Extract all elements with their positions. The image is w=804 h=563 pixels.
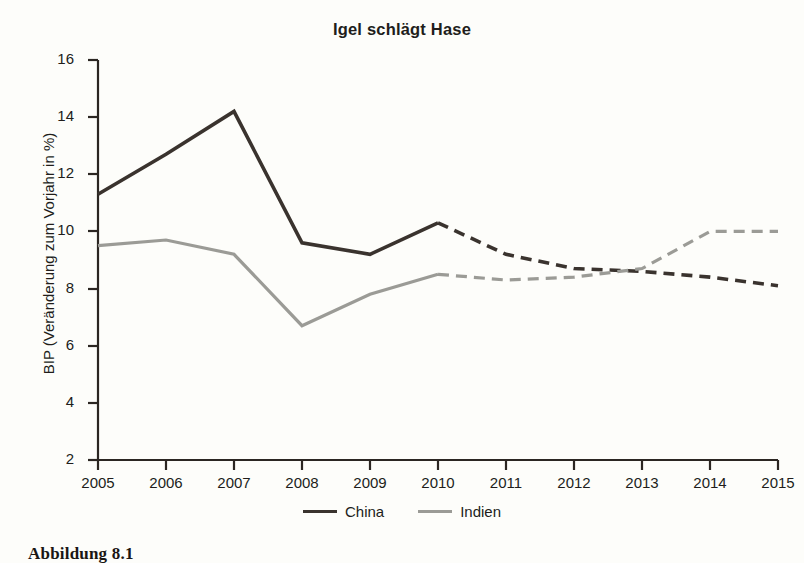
y-tick-label: 6 xyxy=(30,336,74,353)
x-tick-label: 2013 xyxy=(607,474,677,491)
legend-entry-indien: Indien xyxy=(418,503,501,520)
x-tick-label: 2010 xyxy=(403,474,473,491)
series-line-china-forecast xyxy=(438,223,778,286)
series-line-indien-forecast xyxy=(438,231,778,280)
y-tick-label: 4 xyxy=(30,393,74,410)
series-lines xyxy=(98,111,778,325)
x-tick-label: 2012 xyxy=(539,474,609,491)
legend-swatch-china xyxy=(303,510,337,513)
x-tick-label: 2014 xyxy=(675,474,745,491)
y-tick-label: 16 xyxy=(30,50,74,67)
line-chart-plot xyxy=(0,0,804,500)
y-axis xyxy=(88,60,98,460)
x-tick-label: 2011 xyxy=(471,474,541,491)
y-tick-label: 12 xyxy=(30,164,74,181)
y-tick-label: 2 xyxy=(30,450,74,467)
x-tick-label: 2008 xyxy=(267,474,337,491)
legend-swatch-indien xyxy=(418,510,452,513)
y-tick-label: 8 xyxy=(30,279,74,296)
legend-label-china: China xyxy=(345,503,384,520)
legend-label-indien: Indien xyxy=(460,503,501,520)
x-axis xyxy=(98,460,778,470)
legend-entry-china: China xyxy=(303,503,384,520)
x-tick-label: 2005 xyxy=(63,474,133,491)
x-tick-label: 2015 xyxy=(743,474,804,491)
y-tick-label: 10 xyxy=(30,221,74,238)
figure-caption: Abbildung 8.1 xyxy=(28,544,134,563)
y-tick-label: 14 xyxy=(30,107,74,124)
figure-container: Igel schlägt Hase BIP (Veränderung zum V… xyxy=(0,0,804,563)
x-tick-label: 2007 xyxy=(199,474,269,491)
chart-legend: China Indien xyxy=(0,503,804,520)
series-line-indien-actual xyxy=(98,240,438,326)
x-tick-label: 2006 xyxy=(131,474,201,491)
x-tick-label: 2009 xyxy=(335,474,405,491)
series-line-china-actual xyxy=(98,111,438,254)
